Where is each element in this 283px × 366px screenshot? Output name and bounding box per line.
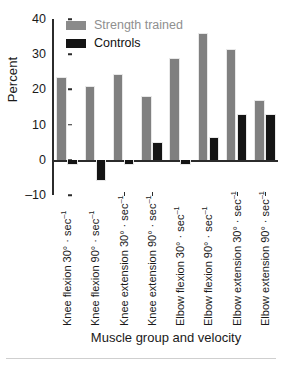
x-tick-label: Elbow extension 90° · sec–1 [259, 191, 271, 326]
legend-label: Strength trained [94, 18, 183, 32]
bar-trained [254, 100, 265, 160]
bar-control [96, 160, 107, 181]
legend-item: Strength trained [66, 17, 183, 33]
bar-trained [113, 74, 124, 160]
bar-group [194, 19, 222, 195]
x-tick: Knee flexion 90° · sec–1 [81, 196, 109, 326]
footer-divider [6, 358, 276, 359]
bar-control [152, 142, 163, 160]
y-axis-title: Percent [5, 40, 20, 120]
y-axis-ticks: 403020100–10 [20, 0, 46, 366]
x-tick: Knee extension 90° · sec–1 [138, 196, 166, 326]
legend-item: Controls [66, 35, 183, 51]
y-tick-label: 10 [20, 118, 46, 132]
y-tick-label: 0 [20, 153, 46, 167]
bar-control [265, 114, 276, 160]
x-tick-label: Knee extension 30° · sec–1 [118, 195, 130, 326]
x-tick: Elbow flexion 90° · sec–1 [194, 196, 222, 326]
legend-label: Controls [94, 36, 141, 50]
x-tick: Knee flexion 30° · sec–1 [53, 196, 81, 326]
x-tick: Elbow flexion 30° · sec–1 [166, 196, 194, 326]
bar-control [124, 160, 135, 165]
x-axis-ticks: Knee flexion 30° · sec–1Knee flexion 90°… [53, 196, 279, 326]
bar-control [180, 160, 191, 165]
bar-control [67, 160, 78, 165]
bar-group [223, 19, 251, 195]
x-tick-label: Knee flexion 90° · sec–1 [89, 211, 101, 326]
bar-trained [226, 49, 237, 160]
chart-legend: Strength trainedControls [66, 17, 183, 53]
x-tick-label: Knee flexion 30° · sec–1 [61, 211, 73, 326]
bar-group [251, 19, 279, 195]
legend-swatch-icon [66, 21, 86, 30]
y-tick-label: –10 [20, 188, 46, 202]
x-tick-label: Elbow extension 30° · sec–1 [231, 191, 243, 326]
x-tick: Knee extension 30° · sec–1 [110, 196, 138, 326]
bar-trained [169, 58, 180, 160]
bar-trained [85, 86, 96, 160]
bar-control [237, 114, 248, 160]
x-axis-title: Muscle group and velocity [53, 330, 279, 345]
bar-trained [56, 77, 67, 160]
y-tick-label: 40 [20, 12, 46, 26]
bar-control [209, 137, 220, 160]
x-tick: Elbow extension 30° · sec–1 [223, 196, 251, 326]
y-tick-label: 30 [20, 47, 46, 61]
x-tick-label: Elbow flexion 30° · sec–1 [174, 206, 186, 326]
bar-chart-figure: Percent 403020100–10 Strength trainedCon… [0, 0, 283, 366]
y-tick-label: 20 [20, 82, 46, 96]
x-tick-label: Knee extension 90° · sec–1 [146, 195, 158, 326]
bar-trained [141, 96, 152, 159]
x-tick: Elbow extension 90° · sec–1 [251, 196, 279, 326]
x-tick-label: Elbow flexion 90° · sec–1 [202, 206, 214, 326]
bar-trained [198, 33, 209, 160]
legend-swatch-icon [66, 39, 86, 48]
